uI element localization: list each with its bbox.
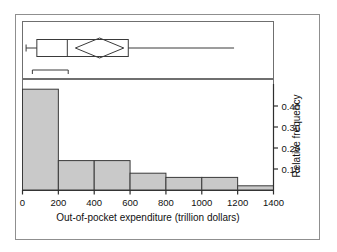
histogram-bar [166,177,202,190]
x-axis-tick-label: 400 [86,197,102,208]
x-axis-title: Out-of-pocket expenditure (trillion doll… [22,212,274,223]
histogram-bar [94,161,130,190]
x-axis-ticks-group [23,190,274,195]
x-axis-tick-label: 1400 [263,197,284,208]
boxplot-group [26,38,234,74]
histogram-bar [238,186,274,190]
y-axis-ticks-group [274,84,279,190]
histogram-bar [202,177,238,190]
histogram-bar [130,173,166,190]
histogram-bars-group [23,89,274,190]
y-axis-title: Relative frequency [291,95,302,178]
x-axis-tick-label: 200 [50,197,66,208]
x-axis-tick-label: 600 [122,197,138,208]
x-axis-tick-label: 1000 [191,197,212,208]
boxplot-box [37,40,128,57]
histogram-bar [23,89,59,190]
x-axis-tick-label: 800 [158,197,174,208]
figure-container: 0200400600800100012001400 0.100.200.300.… [0,0,337,252]
x-axis-tick-label: 0 [20,197,25,208]
x-axis-tick-label: 1200 [227,197,248,208]
boxplot-mean-diamond [75,38,123,58]
histogram-bar [58,161,94,190]
